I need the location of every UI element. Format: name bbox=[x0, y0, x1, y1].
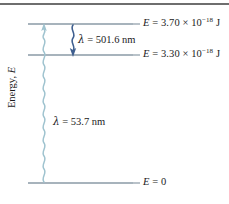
lambda-value-absorption: 53.7 bbox=[71, 116, 89, 127]
lambda-symbol-absorption: λ bbox=[53, 115, 60, 127]
level-equals-middle: = bbox=[150, 48, 161, 59]
axis-label-energy: Energy, E bbox=[6, 53, 17, 123]
transition-label-emission: λ = 501.6 nm bbox=[78, 33, 136, 45]
level-value-ground: 0 bbox=[161, 176, 166, 187]
lambda-equals-absorption: = bbox=[60, 116, 71, 127]
transition-label-absorption: λ = 53.7 nm bbox=[53, 115, 105, 127]
lambda-value-emission: 501.6 bbox=[96, 34, 120, 45]
lambda-unit-absorption: nm bbox=[89, 116, 105, 127]
level-label-upper: E = 3.70 × 10−18 J bbox=[143, 17, 220, 28]
diagram-canvas bbox=[0, 0, 229, 204]
level-equals-upper: = bbox=[150, 17, 161, 28]
level-value-upper: 3.70 bbox=[161, 17, 180, 28]
level-value-middle: 3.30 bbox=[161, 48, 180, 59]
level-times-middle: × 10 bbox=[180, 48, 202, 59]
axis-label-symbol: E bbox=[6, 67, 17, 73]
axis-label-text: Energy, bbox=[6, 73, 17, 108]
lambda-symbol-emission: λ bbox=[78, 33, 85, 45]
level-label-ground: E = 0 bbox=[143, 176, 166, 187]
emission-wavy-arrow bbox=[72, 25, 74, 51]
level-unit-middle: J bbox=[213, 48, 220, 59]
lambda-unit-emission: nm bbox=[119, 34, 135, 45]
energy-level-diagram: E = 3.70 × 10−18 J E = 3.30 × 10−18 J E … bbox=[0, 0, 229, 204]
absorption-wavy-arrow bbox=[43, 29, 45, 182]
level-exponent-middle: −18 bbox=[202, 47, 213, 55]
level-exponent-upper: −18 bbox=[202, 16, 213, 24]
level-unit-upper: J bbox=[213, 17, 220, 28]
level-equals-ground: = bbox=[150, 176, 161, 187]
level-times-upper: × 10 bbox=[180, 17, 202, 28]
level-label-middle: E = 3.30 × 10−18 J bbox=[143, 48, 220, 59]
lambda-equals-emission: = bbox=[85, 34, 96, 45]
